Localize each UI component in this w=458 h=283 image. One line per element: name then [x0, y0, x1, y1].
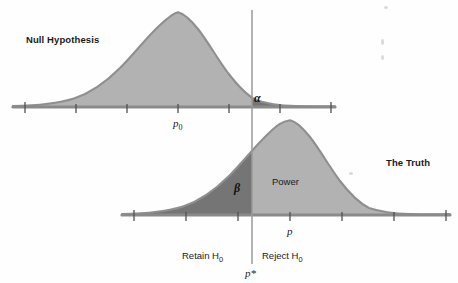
power-diagram-figure: Null Hypothesis The Truth α β Power p0 p…: [0, 0, 458, 283]
p-star-label: p*: [245, 267, 256, 279]
null-hypothesis-distribution: [13, 12, 335, 113]
null-curve-fill: [13, 12, 335, 107]
p0-subscript: 0: [179, 123, 183, 132]
p-tick-label: p: [287, 225, 293, 237]
p0-tick-label: p0: [173, 117, 183, 132]
beta-label: β: [234, 181, 240, 196]
null-hypothesis-label: Null Hypothesis: [26, 34, 99, 45]
scan-artifact-speck: [349, 172, 353, 175]
retain-h0-subscript: 0: [219, 255, 223, 264]
retain-h0-base: Retain H: [182, 250, 219, 261]
reject-h0-label: Reject H0: [262, 250, 303, 264]
scan-artifact-speck: [384, 6, 388, 9]
reject-h0-base: Reject H: [262, 250, 298, 261]
truth-distribution: [122, 120, 450, 221]
the-truth-label: The Truth: [386, 157, 430, 168]
reject-h0-subscript: 0: [298, 255, 302, 264]
power-label: Power: [272, 176, 299, 187]
scan-artifact-speck: [381, 55, 384, 60]
retain-h0-label: Retain H0: [182, 250, 223, 264]
scan-artifact-speck: [381, 39, 384, 45]
alpha-label: α: [254, 91, 261, 106]
